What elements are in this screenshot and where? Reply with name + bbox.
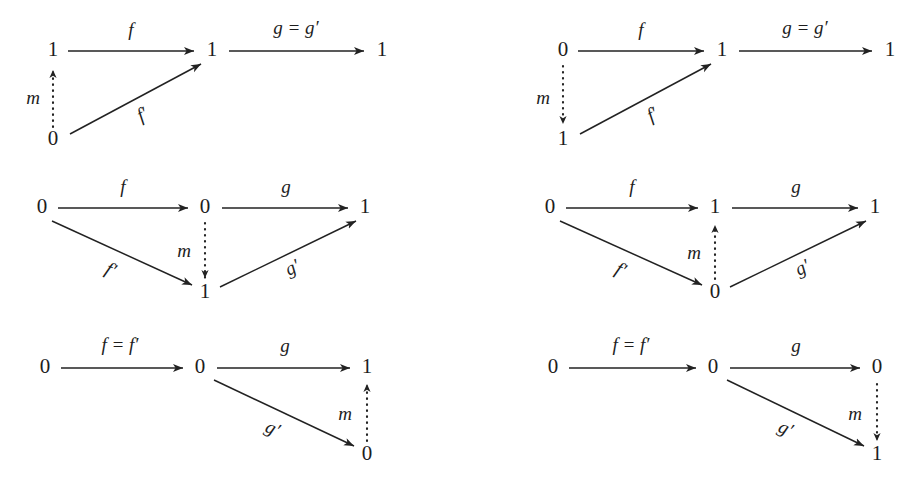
node-left-bottom: 0 bbox=[48, 126, 59, 150]
label-f: f = f′ bbox=[101, 334, 139, 355]
node-left-top: 0 bbox=[548, 354, 559, 378]
node-right-bottom: 0 bbox=[362, 441, 373, 465]
arrow-g-prime bbox=[730, 221, 866, 287]
diagram-middle-right: 0 1 1 0 f g m f′ g′ bbox=[508, 163, 913, 326]
node-middle-top: 1 bbox=[710, 194, 721, 218]
arrow-f-prime bbox=[580, 64, 711, 134]
diagram-top-left-canvas: 1 1 1 0 f g = g′ m f′ bbox=[0, 0, 440, 170]
node-left-top: 0 bbox=[37, 194, 48, 218]
arrow-f-prime bbox=[70, 64, 201, 134]
node-right-top: 1 bbox=[377, 37, 388, 61]
arrow-g-prime bbox=[727, 380, 864, 446]
label-m: m bbox=[177, 240, 191, 261]
diagram-bottom-left-canvas: 0 0 1 0 f = f′ g m g′ bbox=[0, 326, 440, 489]
diagram-top-right-canvas: 0 1 1 1 f g = g′ m f′ bbox=[510, 0, 913, 170]
node-right-top: 1 bbox=[362, 354, 373, 378]
diagram-top-right: 0 1 1 1 f g = g′ m f′ bbox=[510, 0, 913, 170]
label-g: g bbox=[280, 335, 290, 356]
node-middle-top: 1 bbox=[717, 37, 728, 61]
node-middle-top: 0 bbox=[195, 354, 206, 378]
label-m: m bbox=[848, 403, 862, 424]
diagram-middle-left: 0 0 1 1 f g m f′ g′ bbox=[0, 163, 440, 326]
node-middle-top: 1 bbox=[207, 37, 218, 61]
label-g-prime: g′ bbox=[262, 416, 284, 441]
node-middle-top: 0 bbox=[708, 354, 719, 378]
arrow-g-prime bbox=[220, 221, 356, 287]
node-middle-bottom: 1 bbox=[200, 279, 211, 303]
node-left-top: 1 bbox=[48, 37, 59, 61]
node-right-bottom: 1 bbox=[872, 441, 883, 465]
node-right-top: 1 bbox=[360, 194, 371, 218]
label-g: g bbox=[791, 335, 801, 356]
label-f: f bbox=[629, 176, 637, 197]
label-m: m bbox=[26, 87, 40, 108]
label-g-prime: g′ bbox=[281, 254, 303, 279]
label-m: m bbox=[536, 87, 550, 108]
label-f: f bbox=[638, 19, 646, 40]
arrow-f-prime bbox=[52, 221, 192, 285]
diagram-middle-left-canvas: 0 0 1 1 f g m f′ g′ bbox=[0, 163, 440, 326]
node-left-top: 0 bbox=[545, 194, 556, 218]
node-middle-top: 0 bbox=[200, 194, 211, 218]
diagram-bottom-right-canvas: 0 0 0 1 f = f′ g m g′ bbox=[508, 326, 913, 489]
diagram-middle-right-canvas: 0 1 1 0 f g m f′ g′ bbox=[508, 163, 913, 326]
diagram-top-left: 1 1 1 0 f g = g′ m f′ bbox=[0, 0, 440, 170]
label-g-prime: g′ bbox=[791, 254, 813, 279]
label-f-prime: f′ bbox=[643, 102, 662, 125]
diagram-bottom-left: 0 0 1 0 f = f′ g m g′ bbox=[0, 326, 440, 489]
label-f-prime: f′ bbox=[133, 102, 152, 125]
label-f: f = f′ bbox=[612, 334, 650, 355]
label-m: m bbox=[338, 403, 352, 424]
node-right-top: 0 bbox=[872, 354, 883, 378]
node-right-top: 1 bbox=[885, 37, 896, 61]
node-middle-bottom: 0 bbox=[710, 279, 721, 303]
label-g: g bbox=[791, 176, 801, 197]
label-m: m bbox=[687, 242, 701, 263]
label-g: g = g′ bbox=[782, 17, 828, 38]
label-f-prime: f′ bbox=[102, 258, 120, 281]
arrow-f-prime bbox=[560, 221, 702, 285]
arrow-g-prime bbox=[214, 380, 354, 446]
label-g: g = g′ bbox=[273, 17, 319, 38]
label-g: g bbox=[281, 176, 291, 197]
commutative-diagram-figure: 1 1 1 0 f g = g′ m f′ 0 bbox=[0, 0, 913, 489]
node-right-top: 1 bbox=[870, 194, 881, 218]
label-g-prime: g′ bbox=[775, 416, 797, 441]
node-left-top: 0 bbox=[40, 354, 51, 378]
node-left-bottom: 1 bbox=[558, 126, 569, 150]
label-f-prime: f′ bbox=[612, 258, 630, 281]
node-left-top: 0 bbox=[558, 37, 569, 61]
label-f: f bbox=[120, 176, 128, 197]
label-f: f bbox=[128, 19, 136, 40]
diagram-bottom-right: 0 0 0 1 f = f′ g m g′ bbox=[508, 326, 913, 489]
